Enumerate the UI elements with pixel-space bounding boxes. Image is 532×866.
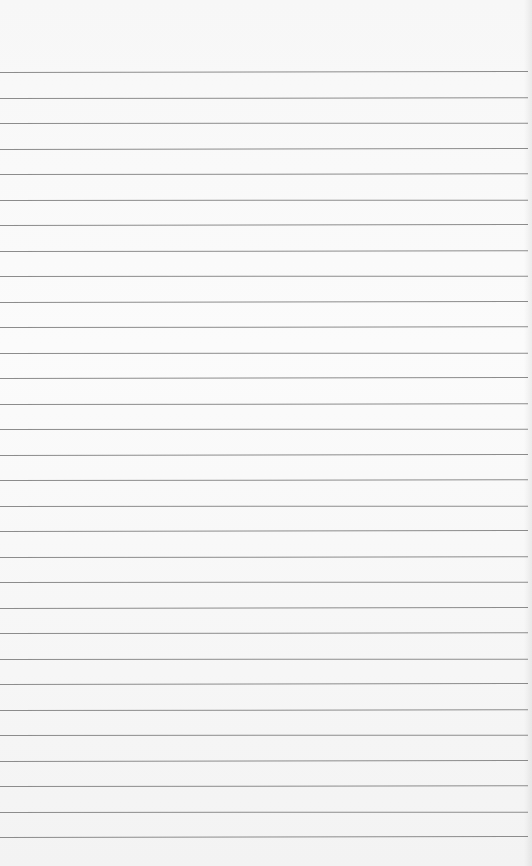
ruled-line bbox=[0, 709, 528, 711]
ruled-line bbox=[0, 658, 528, 659]
ruled-line bbox=[0, 785, 528, 787]
ruled-line bbox=[0, 505, 528, 506]
ruled-line bbox=[0, 224, 528, 226]
ruled-line bbox=[0, 276, 528, 277]
ruled-line bbox=[0, 352, 528, 353]
ruled-line bbox=[0, 71, 528, 73]
ruled-line bbox=[0, 250, 528, 252]
ruled-line bbox=[0, 173, 528, 175]
ruled-line bbox=[0, 683, 528, 685]
ruled-line bbox=[0, 606, 528, 608]
ruled-line bbox=[0, 377, 528, 379]
ruled-line bbox=[0, 123, 528, 124]
ruled-line bbox=[0, 632, 528, 634]
ruled-line bbox=[0, 811, 528, 812]
ruled-line bbox=[0, 582, 528, 583]
ruled-line bbox=[0, 759, 528, 761]
ruled-line bbox=[0, 453, 528, 455]
lined-paper bbox=[0, 0, 532, 866]
ruled-line bbox=[0, 735, 528, 736]
paper-edge-shadow bbox=[524, 0, 532, 866]
ruled-line bbox=[0, 429, 528, 430]
ruled-line bbox=[0, 97, 528, 99]
ruled-line bbox=[0, 530, 528, 532]
ruled-line bbox=[0, 326, 528, 328]
ruled-line bbox=[0, 199, 528, 200]
ruled-line bbox=[0, 300, 528, 302]
ruled-line bbox=[0, 147, 528, 149]
ruled-line bbox=[0, 403, 528, 405]
ruled-line bbox=[0, 556, 528, 558]
ruled-line bbox=[0, 479, 528, 481]
ruled-line bbox=[0, 836, 528, 838]
